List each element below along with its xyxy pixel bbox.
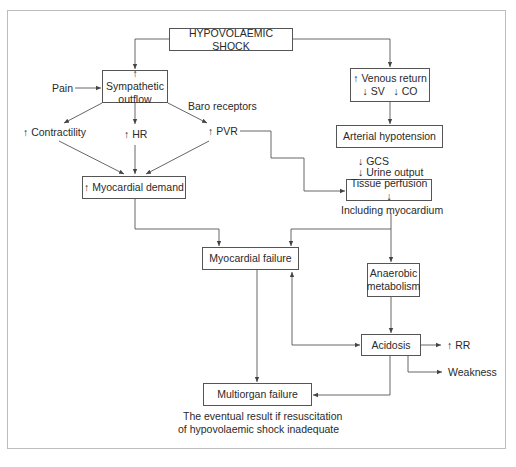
node-label: Acidosis [371, 339, 410, 352]
label-pain: Pain [52, 82, 73, 95]
node-anaerobic-metabolism: Anaerobic metabolism [367, 263, 420, 297]
arrow-pvr-to-perfusion [240, 131, 345, 191]
node-myocardial-demand: ↑ Myocardial demand [82, 176, 186, 199]
node-label: Arterial hypotension [343, 130, 436, 143]
label-baro-receptors: Baro receptors [188, 100, 257, 113]
label-footnote-line2: of hypovolaemic shock inadequate [178, 423, 338, 436]
label-rr: ↑ RR [447, 339, 470, 352]
label-pvr: ↑ PVR [208, 125, 238, 138]
node-label: Tissue perfusion ↓ [347, 177, 431, 203]
arrow-shock-to-venous [293, 39, 390, 67]
label-including-myocardium: Including myocardium [341, 204, 443, 217]
arrow-perfusion-to-failure [291, 213, 391, 246]
node-label: metabolism [367, 280, 421, 293]
arrow-acidosis-to-multiorgan [313, 356, 390, 395]
node-label: outflow [118, 93, 151, 106]
label-urine-output: ↓ Urine output [358, 166, 423, 179]
node-hypovolaemic-shock: HYPOVOLAEMIC SHOCK [169, 28, 293, 51]
node-venous-return: ↑ Venous return ↓ SV ↓ CO [350, 68, 430, 102]
node-label: ↑ Venous return [353, 72, 427, 85]
diagram-canvas: HYPOVOLAEMIC SHOCK ↑ Sympathetic outflow… [0, 0, 516, 467]
label-contractility: ↑ Contractility [23, 126, 86, 139]
label-weakness: Weakness [448, 366, 497, 379]
arrow-pvr-to-demand [146, 141, 209, 174]
node-myocardial-failure: Myocardial failure [202, 247, 299, 270]
arrow-contractility-to-demand [59, 141, 124, 174]
node-tissue-perfusion: Tissue perfusion ↓ [346, 179, 432, 201]
label-hr: ↑ HR [124, 128, 147, 141]
arrow-demand-to-failure [135, 199, 219, 246]
label-footnote-line1: The eventual result if resuscitation [183, 410, 333, 423]
node-label: ↑ Sympathetic [103, 67, 167, 93]
node-label: Anaerobic [370, 267, 417, 280]
node-label: Myocardial failure [209, 252, 291, 265]
arrow-shock-to-sympathetic [135, 39, 169, 69]
node-multiorgan-failure: Multiorgan failure [203, 383, 312, 406]
node-label: HYPOVOLAEMIC SHOCK [170, 27, 292, 53]
node-arterial-hypotension: Arterial hypotension [336, 125, 443, 148]
node-label: ↑ Myocardial demand [84, 181, 184, 194]
arrow-to-contractility [64, 103, 102, 123]
node-acidosis: Acidosis [361, 334, 421, 356]
node-sympathetic-outflow: ↑ Sympathetic outflow [102, 70, 168, 103]
node-label: ↓ SV ↓ CO [363, 85, 418, 98]
arrow-to-weakness [408, 356, 442, 372]
node-label: Multiorgan failure [217, 388, 298, 401]
